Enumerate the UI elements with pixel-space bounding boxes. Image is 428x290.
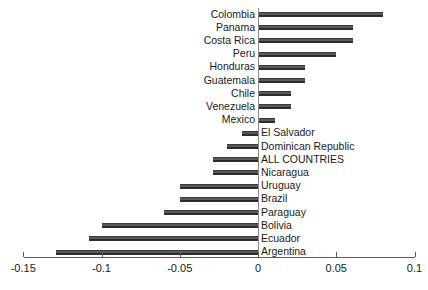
bar-row: Mexico [0,114,428,127]
bar-row: Nicaragua [0,166,428,179]
x-tick [415,252,416,257]
bar [227,144,258,149]
bar [258,104,291,109]
x-tick-label: 0.05 [326,262,347,274]
bar [180,197,258,202]
bar [258,65,305,70]
bar-row: Chile [0,87,428,100]
bar [258,78,305,83]
category-label: Brazil [261,192,287,205]
category-label: Mexico [222,113,255,126]
bar-row: Panama [0,21,428,34]
bar-chart: ColombiaPanamaCosta RicaPeruHondurasGuat… [0,0,428,290]
category-label: El Salvador [261,126,315,139]
category-label: Peru [233,47,255,60]
bar-row: Bolivia [0,219,428,232]
category-label: Uruguay [261,179,301,192]
bar-row: Guatemala [0,74,428,87]
bar [213,157,258,162]
category-label: Chile [231,87,255,100]
x-tick-label: -0.05 [167,262,192,274]
bar-row: Colombia [0,8,428,21]
x-tick [180,252,181,257]
category-label: Venezuela [206,100,255,113]
category-label: Paraguay [261,206,306,219]
bar [258,12,383,17]
category-label: Bolivia [261,219,292,232]
bar [258,91,291,96]
bar-row: Paraguay [0,206,428,219]
x-tick [258,252,259,257]
bar-row: Uruguay [0,180,428,193]
bar-row: Dominican Republic [0,140,428,153]
bar [89,236,258,241]
category-label: Dominican Republic [261,140,354,153]
bar [258,25,353,30]
bar [164,210,258,215]
bar [258,38,353,43]
bar-row: Venezuela [0,100,428,113]
x-tick-label: 0.1 [407,262,422,274]
bar-row: Ecuador [0,232,428,245]
bar [180,184,258,189]
bar-row: Peru [0,48,428,61]
bar [242,131,258,136]
category-label: Guatemala [204,74,255,87]
category-label: Panama [216,21,255,34]
bar [56,250,258,255]
bar-row: Costa Rica [0,34,428,47]
category-label: Honduras [209,60,255,73]
bar [258,118,275,123]
x-tick [23,252,24,257]
category-label: Costa Rica [204,34,255,47]
bar-row: Honduras [0,61,428,74]
category-label: ALL COUNTRIES [261,153,344,166]
x-tick [336,252,337,257]
bar-row: Brazil [0,193,428,206]
plot-area: ColombiaPanamaCosta RicaPeruHondurasGuat… [0,0,428,252]
category-label: Nicaragua [261,166,309,179]
bar-row: ALL COUNTRIES [0,153,428,166]
bar [102,223,259,228]
category-label: Ecuador [261,232,300,245]
x-tick-label: -0.15 [11,262,36,274]
x-axis-line [24,257,415,258]
x-tick-label: -0.1 [92,262,111,274]
bar-row: El Salvador [0,127,428,140]
x-tick-label: 0 [255,262,261,274]
bar [258,52,336,57]
bar [213,170,258,175]
zero-axis-line [258,8,259,257]
x-tick [102,252,103,257]
category-label: Colombia [211,8,255,21]
